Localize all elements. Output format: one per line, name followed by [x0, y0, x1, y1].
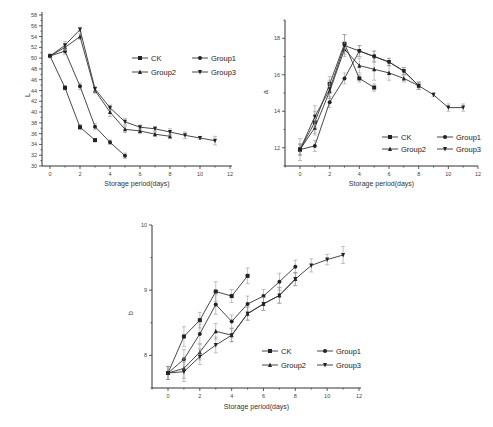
x-tick-label: 2: [328, 171, 331, 177]
x-tick-label: 12: [475, 171, 481, 177]
triangle-down-marker: [63, 43, 67, 48]
x-tick-label: 2: [198, 393, 201, 399]
series-line: [50, 51, 125, 156]
square-marker: [198, 318, 202, 322]
y-axis-label: b: [127, 311, 134, 315]
y-tick-label: 32: [31, 152, 37, 158]
legend-label: Group3: [456, 145, 481, 154]
legend-item-ck: CK: [382, 133, 411, 142]
y-tick-label: 10: [141, 222, 147, 228]
chart-a: 02468101212141618Storage period(days)aCK…: [262, 20, 481, 188]
series-ck: [166, 268, 250, 379]
x-tick-label: 4: [358, 171, 361, 177]
series-group3: [48, 27, 217, 145]
y-tick-label: 34: [31, 141, 37, 147]
circle-marker: [246, 302, 250, 306]
square-marker: [93, 138, 97, 142]
square-marker: [230, 294, 234, 298]
circle-marker: [277, 280, 281, 284]
triangle-down-marker: [214, 343, 218, 348]
y-tick-label: 30: [31, 163, 37, 169]
x-tick-label: 10: [197, 171, 203, 177]
legend-item-group1: Group1: [437, 133, 481, 142]
legend-label: Group3: [336, 361, 361, 370]
square-marker: [214, 290, 218, 294]
y-tick-label: 42: [31, 98, 37, 104]
circle-marker: [313, 144, 317, 148]
circle-marker: [198, 332, 202, 336]
y-tick-label: 52: [31, 44, 37, 50]
circle-marker: [198, 56, 202, 60]
y-axis-label: L: [24, 93, 31, 97]
legend-item-group2: Group2: [382, 145, 426, 154]
circle-marker: [230, 319, 234, 323]
x-tick-label: 6: [262, 393, 265, 399]
y-tick-label: 56: [31, 23, 37, 29]
legend-label: Group2: [401, 145, 426, 154]
y-tick-label: 16: [274, 72, 280, 78]
x-tick-label: 8: [294, 393, 297, 399]
y-tick-label: 14: [274, 108, 280, 114]
circle-marker: [108, 140, 112, 144]
y-tick-label: 46: [31, 77, 37, 83]
legend-item-group1: Group1: [192, 54, 236, 63]
legend-label: Group1: [456, 133, 481, 142]
legend: CKGroup1Group2Group3: [382, 133, 481, 154]
series-group3: [166, 247, 345, 382]
x-tick-label: 0: [166, 393, 169, 399]
y-tick-label: 36: [31, 131, 37, 137]
series-ck: [298, 35, 376, 161]
legend: CKGroup1Group2Group3: [262, 347, 361, 370]
legend-label: Group3: [211, 68, 236, 77]
legend-label: CK: [281, 347, 291, 356]
x-tick-label: 8: [168, 171, 171, 177]
series-line: [168, 255, 343, 373]
legend-label: Group2: [281, 361, 306, 370]
y-tick-label: 9: [144, 287, 147, 293]
legend-item-group2: Group2: [132, 68, 176, 77]
legend-item-group3: Group3: [317, 361, 361, 370]
circle-marker: [214, 303, 218, 307]
y-tick-label: 12: [274, 145, 280, 151]
figure-canvas: 024681012303234363840424446485052545658S…: [0, 0, 493, 427]
square-marker: [372, 86, 376, 90]
circle-marker: [323, 349, 327, 353]
square-marker: [268, 349, 272, 353]
y-tick-label: 54: [31, 34, 37, 40]
x-tick-label: 4: [230, 393, 233, 399]
y-tick-label: 50: [31, 55, 37, 61]
y-axis-label: a: [262, 90, 269, 94]
legend-label: CK: [151, 54, 161, 63]
x-tick-label: 12: [356, 393, 362, 399]
legend-item-group2: Group2: [262, 361, 306, 370]
x-axis-label: Storage period(days): [104, 180, 169, 188]
legend-label: Group1: [211, 54, 236, 63]
legend-item-ck: CK: [132, 54, 161, 63]
circle-marker: [443, 135, 447, 139]
square-marker: [138, 56, 142, 60]
chart-L: 024681012303234363840424446485052545658S…: [24, 12, 236, 188]
x-tick-label: 6: [138, 171, 141, 177]
circle-marker: [328, 100, 332, 104]
square-marker: [388, 135, 392, 139]
circle-marker: [123, 154, 127, 158]
circle-marker: [78, 84, 82, 88]
x-tick-label: 2: [78, 171, 81, 177]
square-marker: [357, 76, 361, 80]
circle-marker: [93, 125, 97, 129]
y-tick-label: 8: [144, 352, 147, 358]
square-marker: [78, 125, 82, 129]
chart-b: 0246810128910Storage period(days)bCKGrou…: [127, 222, 362, 411]
y-tick-label: 38: [31, 120, 37, 126]
y-tick-label: 48: [31, 66, 37, 72]
triangle-up-marker: [214, 329, 218, 334]
square-marker: [246, 274, 250, 278]
x-tick-label: 0: [298, 171, 301, 177]
triangle-down-marker: [309, 263, 313, 268]
square-marker: [182, 334, 186, 338]
series-line: [168, 276, 248, 373]
legend-item-group3: Group3: [192, 68, 236, 77]
x-tick-label: 4: [108, 171, 111, 177]
legend-item-ck: CK: [262, 347, 291, 356]
x-tick-label: 10: [445, 171, 451, 177]
